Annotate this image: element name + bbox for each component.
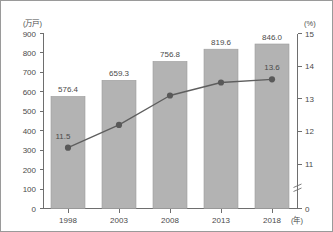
category-label-2003: 2003 [110, 216, 128, 225]
left-tick-label: 500 [23, 107, 37, 116]
left-tick-label: 300 [23, 146, 37, 155]
left-tick-label: 800 [23, 49, 37, 58]
line-marker-2018 [269, 76, 275, 82]
bar-2013 [204, 49, 238, 208]
right-tick-label: 13 [305, 95, 314, 104]
x-axis-unit-label: (年) [291, 215, 303, 225]
bar-group [51, 44, 289, 209]
line-marker-2008 [167, 92, 173, 98]
bar-2008 [153, 61, 187, 208]
right-tick-label: 11 [305, 160, 314, 169]
left-tick-label: 400 [23, 127, 37, 136]
bar-value-2008: 756.8 [160, 50, 181, 59]
category-label-1998: 1998 [59, 216, 77, 225]
bar-value-1998: 576.4 [58, 85, 79, 94]
bar-2003 [102, 80, 136, 208]
line-marker-1998 [65, 145, 71, 151]
combo-chart: (万戸) (%) 900 800 700 600 500 400 300 200 [1, 1, 332, 231]
left-axis-ticks [40, 34, 44, 209]
left-tick-label: 0 [32, 205, 37, 214]
line-value-1998: 11.5 [56, 132, 72, 141]
right-tick-label: 12 [305, 127, 314, 136]
category-label-2008: 2008 [161, 216, 179, 225]
bar-value-2018: 846.0 [262, 33, 283, 42]
right-axis-zero-label: 0 [305, 205, 310, 214]
left-axis-tick-labels: 900 800 700 600 500 400 300 200 100 0 [23, 30, 37, 214]
bar-value-2013: 819.6 [211, 38, 232, 47]
left-tick-label: 700 [23, 68, 37, 77]
line-marker-2013 [218, 79, 224, 85]
left-tick-label: 900 [23, 30, 37, 39]
right-axis-ticks [298, 34, 302, 209]
left-tick-label: 200 [23, 166, 37, 175]
right-axis-tick-labels: 15 14 13 12 11 0 [305, 30, 314, 214]
category-label-2018: 2018 [263, 216, 281, 225]
left-tick-label: 600 [23, 88, 37, 97]
line-marker-2003 [116, 122, 122, 128]
left-tick-label: 100 [23, 185, 37, 194]
left-axis-unit-label: (万戸) [23, 19, 42, 28]
chart-figure: (万戸) (%) 900 800 700 600 500 400 300 200 [0, 0, 333, 232]
right-tick-label: 14 [305, 62, 314, 71]
bar-1998 [51, 96, 85, 208]
x-axis-ticks [68, 209, 272, 213]
x-axis-category-labels: 1998 2003 2008 2013 2018 (年) [59, 215, 303, 225]
right-tick-label: 15 [305, 30, 314, 39]
line-value-2018: 13.6 [264, 63, 280, 72]
category-label-2013: 2013 [212, 216, 230, 225]
right-axis-unit-label: (%) [304, 19, 316, 28]
bar-value-2003: 659.3 [109, 69, 130, 78]
